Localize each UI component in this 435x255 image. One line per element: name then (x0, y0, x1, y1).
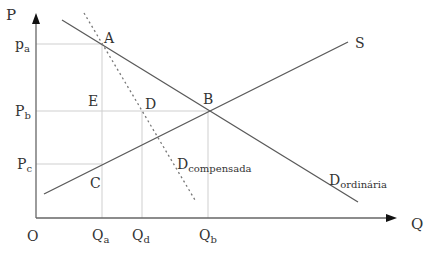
ordinary-demand-label-main: D (329, 172, 340, 188)
quantity-label-qb: Qb (199, 228, 217, 242)
price-label-pb-sub: b (24, 110, 30, 121)
point-label-b: B (203, 92, 213, 106)
quantity-label-qd-main: Q (132, 227, 143, 243)
price-label-pc: Pc (17, 157, 32, 171)
price-label-pb-main: P (15, 103, 24, 119)
price-label-pc-sub: c (26, 163, 32, 174)
compensated-demand-label: Dcompensada (177, 157, 252, 171)
guide-lines (36, 44, 208, 218)
compensated-demand-label-main: D (177, 156, 188, 172)
price-label-pb: Pb (15, 104, 31, 118)
quantity-label-qd-sub: d (143, 234, 149, 245)
point-label-e: E (88, 94, 98, 108)
ordinary-demand-label-sub: ordinária (340, 179, 387, 190)
quantity-label-qa-sub: a (103, 234, 109, 245)
point-label-c: C (90, 176, 101, 190)
quantity-label-qd: Qd (132, 228, 150, 242)
origin-label: O (27, 229, 38, 243)
quantity-label-qa-main: Q (92, 227, 103, 243)
compensated-demand-label-sub: compensada (188, 163, 251, 174)
x-axis-label: Q (411, 217, 423, 232)
quantity-label-qb-main: Q (199, 227, 210, 243)
quantity-label-qb-sub: b (210, 234, 216, 245)
ordinary-demand-label: Dordinária (329, 173, 387, 187)
price-label-pa-sub: a (24, 43, 30, 54)
supply-curve-label: S (355, 36, 365, 50)
point-label-a: A (104, 31, 114, 45)
x-axis-arrow-icon (386, 214, 397, 222)
price-label-pc-main: P (17, 156, 26, 172)
supply-demand-diagram (0, 0, 435, 255)
y-axis-label: P (6, 8, 16, 23)
price-label-pa-main: p (15, 36, 24, 52)
point-label-d: D (145, 97, 156, 111)
y-axis-arrow-icon (32, 13, 40, 24)
price-label-pa: pa (15, 37, 30, 51)
quantity-label-qa: Qa (92, 228, 109, 242)
